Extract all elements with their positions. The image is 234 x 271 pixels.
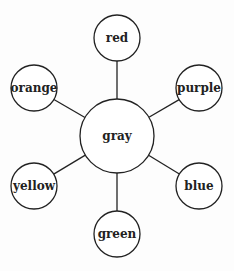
node-label: green (98, 227, 137, 241)
edge-yellow (54, 155, 86, 174)
node-label: purple (177, 81, 221, 95)
node-label: orange (11, 81, 58, 95)
edge-blue (149, 155, 180, 174)
node-label: blue (184, 179, 214, 193)
node-blue: blue (176, 163, 222, 209)
edge-purple (149, 100, 179, 118)
center-label: gray (102, 129, 132, 143)
node-yellow: yellow (11, 163, 57, 209)
edge-orange (54, 100, 85, 118)
node-label: yellow (12, 179, 56, 193)
center-node: gray (80, 99, 154, 173)
hub-spoke-diagram: gray redpurplebluegreenyelloworange (0, 0, 234, 271)
node-label: red (106, 31, 129, 45)
node-green: green (94, 211, 140, 257)
node-red: red (94, 15, 140, 61)
node-orange: orange (11, 65, 58, 111)
node-purple: purple (176, 65, 222, 111)
